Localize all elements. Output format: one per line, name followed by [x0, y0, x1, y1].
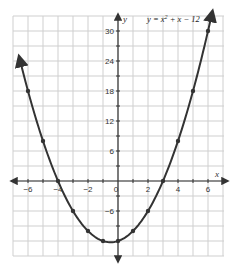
svg-text:18: 18: [105, 87, 114, 96]
x-axis-label: x: [214, 169, 219, 179]
parabola-chart: −6−4−20246302418126−6 x y y = x2 + x − 1…: [0, 0, 244, 269]
y-axis-label: y: [122, 14, 127, 24]
svg-text:−6: −6: [23, 185, 33, 194]
svg-text:2: 2: [146, 185, 151, 194]
svg-text:−6: −6: [105, 207, 115, 216]
svg-text:6: 6: [206, 185, 211, 194]
svg-text:30: 30: [105, 27, 114, 36]
svg-text:24: 24: [105, 57, 114, 66]
svg-text:12: 12: [105, 117, 114, 126]
svg-text:−2: −2: [83, 185, 93, 194]
chart-title: y = x2 + x − 12: [146, 14, 201, 24]
svg-text:0: 0: [114, 185, 119, 194]
svg-text:4: 4: [176, 185, 181, 194]
svg-text:6: 6: [110, 147, 115, 156]
axes: [11, 14, 228, 262]
